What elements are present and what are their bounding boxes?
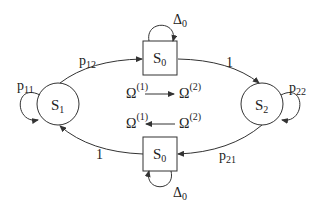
svg-text:Ω(2): Ω(2) [179, 81, 201, 101]
self-loop-s1: p11 [17, 78, 40, 120]
svg-text:S1: S1 [51, 97, 64, 115]
svg-text:S2: S2 [255, 97, 268, 115]
svg-text:p12: p12 [79, 53, 96, 70]
node-s2: S2 [241, 83, 283, 125]
svg-text:1: 1 [226, 55, 233, 70]
self-loop-s2: p22 [281, 80, 306, 120]
svg-text:p22: p22 [289, 80, 306, 97]
edge-s1-to-s0-top: p12 [60, 53, 142, 83]
svg-text:p21: p21 [219, 148, 236, 165]
node-s0-bottom: S0 [143, 137, 177, 171]
omega-transition-forward: Ω(1) Ω(2) [126, 81, 201, 101]
svg-text:Ω(1): Ω(1) [126, 111, 148, 131]
svg-text:Δ0: Δ0 [173, 12, 187, 29]
self-loop-s0-bottom: Δ0 [148, 171, 187, 202]
svg-text:1: 1 [96, 147, 103, 162]
node-s0-top: S0 [143, 41, 177, 75]
svg-text:p11: p11 [17, 78, 34, 95]
svg-text:Ω(1): Ω(1) [126, 81, 148, 101]
svg-text:S0: S0 [153, 146, 166, 164]
state-diagram: S1 S2 S0 S0 p12 1 p21 1 p11 p [0, 0, 319, 205]
svg-text:Ω(2): Ω(2) [179, 111, 201, 131]
svg-text:Δ0: Δ0 [173, 185, 187, 202]
omega-transition-backward: Ω(1) Ω(2) [126, 111, 201, 131]
edge-s0-bottom-to-s1: 1 [60, 126, 143, 162]
svg-text:S0: S0 [153, 50, 166, 68]
node-s1: S1 [37, 83, 79, 125]
edge-s0-top-to-s2: 1 [178, 55, 259, 83]
self-loop-s0-top: Δ0 [149, 12, 187, 41]
edge-s2-to-s0-bottom: p21 [178, 125, 262, 165]
